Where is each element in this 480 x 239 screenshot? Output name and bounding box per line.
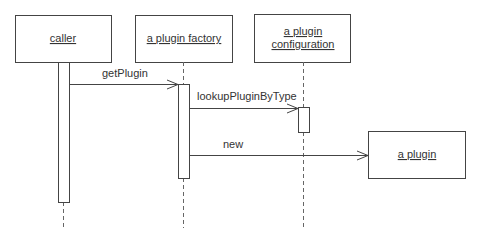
participant-plugin-configuration: a plugin configuration	[255, 15, 351, 63]
activation-factory	[179, 85, 190, 179]
activation-config	[299, 108, 310, 133]
message-lookuppluginbytype: lookupPluginByType	[189, 90, 298, 113]
participant-plugin-factory: a plugin factory	[136, 16, 233, 63]
participant-plugin: a plugin	[369, 132, 466, 179]
activation-caller	[59, 63, 70, 203]
sequence-diagram: caller a plugin factory a plugin configu…	[0, 0, 480, 239]
participant-plugin-configuration-label-line2: configuration	[272, 38, 335, 50]
participant-plugin-configuration-label-line1: a plugin	[284, 25, 323, 37]
participant-caller-label: caller	[50, 32, 77, 44]
message-getplugin: getPlugin	[69, 67, 178, 89]
participant-plugin-factory-label: a plugin factory	[147, 32, 222, 44]
message-getplugin-label: getPlugin	[102, 67, 148, 79]
participant-plugin-label: a plugin	[398, 148, 437, 160]
message-new: new	[189, 138, 368, 160]
message-new-label: new	[223, 138, 243, 150]
message-lookuppluginbytype-label: lookupPluginByType	[197, 90, 297, 102]
participant-caller: caller	[16, 16, 112, 63]
